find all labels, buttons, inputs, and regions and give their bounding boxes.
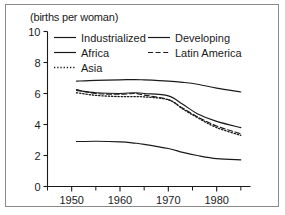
plot-area: 0246810 1950196019701980 IndustrializedD… <box>0 0 285 215</box>
y-tick-label: 8 <box>34 57 40 69</box>
y-tick-label: 2 <box>34 150 40 162</box>
series-line-asia <box>77 93 241 136</box>
y-tick-label: 6 <box>34 88 40 100</box>
x-axis-tick-labels: 1950196019701980 <box>59 194 228 206</box>
y-tick-label: 0 <box>34 181 40 193</box>
x-tick-label: 1980 <box>204 194 228 206</box>
legend-label-africa: Africa <box>81 47 110 59</box>
chart-figure: (births per woman) 0246810 1950196019701… <box>0 0 285 215</box>
series-line-industrialized <box>77 141 241 160</box>
y-axis-tick-labels: 0246810 <box>28 26 40 193</box>
y-tick-label: 4 <box>34 119 40 131</box>
x-tick-label: 1950 <box>59 194 83 206</box>
x-tick-label: 1970 <box>156 194 180 206</box>
legend-label-developing: Developing <box>175 32 230 44</box>
data-series <box>77 80 241 160</box>
legend-label-latin-america: Latin America <box>175 47 243 59</box>
series-line-developing <box>77 90 241 127</box>
series-line-africa <box>77 80 241 92</box>
legend-label-industrialized: Industrialized <box>81 32 146 44</box>
legend-label-asia: Asia <box>81 62 103 74</box>
x-tick-label: 1960 <box>108 194 132 206</box>
chart-legend: IndustrializedDevelopingAfricaLatin Amer… <box>54 32 243 74</box>
y-tick-label: 10 <box>28 26 40 38</box>
